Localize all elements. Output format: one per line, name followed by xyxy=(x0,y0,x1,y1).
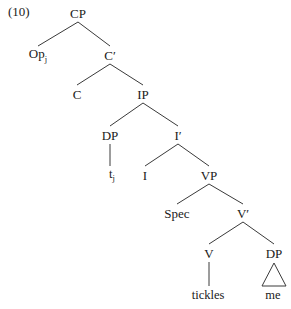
tree-node-i: I xyxy=(143,169,147,182)
tree-node-label: C xyxy=(104,48,113,63)
tree-node-dp2: DP xyxy=(266,247,283,260)
tree-node-label: V xyxy=(204,246,213,261)
tree-node-label: IP xyxy=(137,87,149,102)
tree-node-tickles: tickles xyxy=(192,289,225,302)
tree-node-label: Op xyxy=(29,46,45,61)
tree-node-dp1: DP xyxy=(102,129,119,142)
tree-node-label: C xyxy=(73,87,82,102)
tree-node-label: me xyxy=(265,288,280,302)
branch-vbar-to-v xyxy=(209,222,243,244)
tree-node-op: Opj xyxy=(29,47,47,63)
tree-node-ip: IP xyxy=(137,88,149,101)
prime-mark: ′ xyxy=(246,206,249,221)
tree-node-label: V xyxy=(237,206,246,221)
branch-cbar-to-c xyxy=(77,64,110,85)
tree-node-label: DP xyxy=(266,246,283,261)
tree-node-label: CP xyxy=(70,6,86,21)
branch-ibar-to-vp xyxy=(178,144,209,166)
tree-node-spec: Spec xyxy=(164,207,189,220)
tree-node-v: V xyxy=(204,247,213,260)
branch-ip-to-dp1 xyxy=(110,103,143,126)
constituent-triangle-me xyxy=(262,263,286,286)
tree-node-label: DP xyxy=(102,128,119,143)
tree-node-c: C xyxy=(73,88,82,101)
tree-node-cbar: C′ xyxy=(104,49,116,62)
branch-vbar-to-dp2 xyxy=(243,222,274,244)
tree-node-me: me xyxy=(265,289,280,302)
branch-vp-to-spec xyxy=(177,184,209,204)
tree-node-vbar: V′ xyxy=(237,207,249,220)
tree-node-trace: tj xyxy=(109,168,115,183)
branch-cbar-to-ip xyxy=(110,64,143,85)
branch-cp-to-op xyxy=(38,22,78,46)
tree-node-label: Spec xyxy=(164,206,189,221)
subscript-index: j xyxy=(45,54,47,64)
tree-node-label: tickles xyxy=(192,288,225,302)
branch-ibar-to-i xyxy=(145,144,178,166)
tree-node-label: VP xyxy=(201,168,218,183)
tree-node-vp: VP xyxy=(201,169,218,182)
prime-mark: ′ xyxy=(113,48,116,63)
subscript-index: j xyxy=(113,173,115,183)
example-number: (10) xyxy=(8,5,30,18)
syntax-tree-figure: (10) CPOpjC′CIPDPI′tjIVPSpecV′VDPtickles… xyxy=(0,0,291,309)
branch-cp-to-cbar xyxy=(78,22,110,46)
tree-node-cp: CP xyxy=(70,7,86,20)
branch-ip-to-ibar xyxy=(143,103,178,126)
tree-node-label: I xyxy=(143,168,147,183)
branch-vp-to-vbar xyxy=(209,184,243,204)
tree-node-ibar: I′ xyxy=(174,129,181,142)
prime-mark: ′ xyxy=(179,128,182,143)
